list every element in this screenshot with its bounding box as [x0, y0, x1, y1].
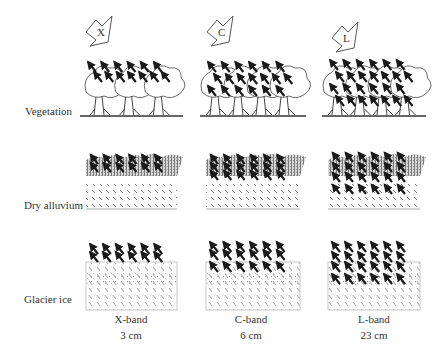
tree-trunk-c-band — [229, 96, 249, 115]
alluvium-subsurface-c-band — [206, 184, 300, 208]
band-name-l: L-band — [334, 311, 414, 327]
backscatter-arrow-ice-l-band — [345, 242, 353, 252]
backscatter-arrow-ice-l-band — [371, 252, 379, 262]
alluvium-subsurface-x-band — [86, 184, 177, 208]
wavelength-l: 23 cm — [334, 327, 414, 343]
row-label-dry-alluvium: Dry alluvium — [24, 199, 83, 211]
tree-crown-x-band — [144, 66, 185, 98]
backscatter-arrow-ice-l-band — [332, 252, 340, 262]
glacier-ice-firn-x-band — [86, 272, 177, 286]
row-label-vegetation: Vegetation — [25, 105, 72, 117]
alluvium-surface-x-band — [86, 154, 183, 176]
backscatter-arrow-ice-l-band — [332, 242, 340, 252]
wavelength-x: 3 cm — [91, 327, 171, 343]
radar-symbol-l-band: L — [343, 32, 350, 44]
radar-symbol-x-band: X — [97, 26, 105, 38]
backscatter-arrow-ice-l-band — [358, 252, 366, 262]
backscatter-arrow-ice-l-band — [345, 252, 353, 262]
tree-trunk-c-band — [206, 96, 226, 115]
band-name-x: X-band — [91, 311, 171, 327]
backscatter-arrow-ice-l-band — [371, 242, 379, 252]
backscatter-arrow-ice-l-band — [384, 242, 392, 252]
band-label-c: C-band 6 cm — [211, 311, 291, 343]
tree-trunk-x-band — [90, 96, 110, 115]
backscatter-arrow-ice-l-band — [397, 242, 405, 252]
tree-trunk-c-band — [275, 96, 295, 115]
radar-symbol-c-band: C — [218, 26, 225, 38]
backscatter-arrow-vegetation-x-band — [88, 62, 96, 72]
backscatter-arrow-ice-l-band — [384, 252, 392, 262]
tree-trunk-x-band — [120, 96, 140, 115]
backscatter-arrow-ice-l-band — [358, 242, 366, 252]
alluvium-surface-c-band — [206, 154, 306, 176]
alluvium-surface-l-band — [328, 154, 426, 176]
band-label-l: L-band 23 cm — [334, 311, 414, 343]
glacier-ice-firn-c-band — [206, 272, 300, 286]
band-name-c: C-band — [211, 311, 291, 327]
wavelength-c: 6 cm — [211, 327, 291, 343]
tree-trunk-c-band — [252, 96, 272, 115]
backscatter-arrow-ice-l-band — [397, 252, 405, 262]
backscatter-arrow-vegetation-l-band — [330, 60, 338, 70]
row-label-glacier-ice: Glacier ice — [24, 293, 72, 305]
tree-trunk-x-band — [149, 96, 169, 115]
band-label-x: X-band 3 cm — [91, 311, 171, 343]
